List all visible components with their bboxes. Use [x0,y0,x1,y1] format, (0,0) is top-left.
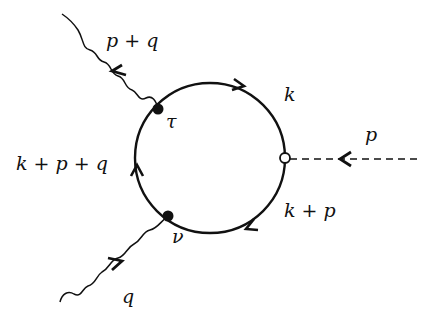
arrow-p-icon [340,152,351,166]
feynman-diagram: p + q τ k p k + p + q k + p ν q [0,0,427,320]
vertex-tau [153,104,164,115]
vertex-nu [163,211,174,222]
label-tau: τ [166,110,177,132]
label-k: k [284,83,296,105]
label-q: q [122,285,134,307]
label-k-plus-p: k + p [284,199,336,221]
label-p-plus-q: p + q [106,29,158,51]
vertex-scalar-open [280,153,290,163]
label-p: p [365,123,377,145]
arrow-k-icon [232,79,244,90]
arrow-k-plus-p-icon [246,219,258,230]
label-k-plus-p-plus-q: k + p + q [16,152,108,174]
label-nu: ν [172,225,184,247]
